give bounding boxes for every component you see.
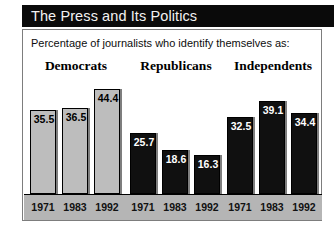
x-tick-republicans-1971: 1971 — [128, 201, 158, 214]
group-heading-republicans: Republicans — [128, 58, 224, 74]
x-tick-democrats-1992: 1992 — [92, 201, 122, 214]
bar-value: 34.4 — [292, 116, 318, 128]
bars-independents: 32.5 39.1 34.4 — [225, 76, 321, 194]
x-tick-independents-1971: 1971 — [225, 201, 255, 214]
page-title: The Press and Its Politics — [31, 7, 197, 26]
title-bar: The Press and Its Politics — [22, 5, 334, 27]
bar-value: 39.1 — [260, 104, 286, 116]
x-tick-republicans-1983: 1983 — [160, 201, 190, 214]
bar-independents-1971[interactable]: 32.5 — [227, 117, 253, 194]
chart-panel: Percentage of journalists who identify t… — [22, 29, 322, 221]
bar-democrats-1992[interactable]: 44.4 — [94, 89, 120, 194]
bar-independents-1983[interactable]: 39.1 — [259, 101, 285, 194]
group-heading-independents: Independents — [225, 58, 321, 74]
bar-democrats-1971[interactable]: 35.5 — [30, 110, 56, 194]
bar-value: 18.6 — [163, 153, 189, 165]
x-tick-independents-1983: 1983 — [257, 201, 287, 214]
bars-republicans: 25.7 18.6 16.3 — [128, 76, 224, 194]
bar-value: 36.5 — [63, 111, 89, 123]
x-tick-democrats-1983: 1983 — [60, 201, 90, 214]
chart-subtitle: Percentage of journalists who identify t… — [31, 36, 290, 50]
bar-independents-1992[interactable]: 34.4 — [291, 113, 317, 194]
x-tick-democrats-1971: 1971 — [28, 201, 58, 214]
x-tick-independents-1992: 1992 — [289, 201, 319, 214]
bar-republicans-1971[interactable]: 25.7 — [130, 133, 156, 194]
bar-republicans-1983[interactable]: 18.6 — [162, 150, 188, 194]
bar-value: 25.7 — [131, 136, 157, 148]
bar-value: 16.3 — [195, 158, 221, 170]
bars-democrats: 35.5 36.5 44.4 — [28, 76, 124, 194]
bar-value: 32.5 — [228, 120, 254, 132]
x-tick-republicans-1992: 1992 — [192, 201, 222, 214]
group-heading-democrats: Democrats — [28, 58, 124, 74]
bar-republicans-1992[interactable]: 16.3 — [194, 155, 220, 194]
chart-figure: The Press and Its Politics Percentage of… — [0, 0, 334, 228]
bar-democrats-1983[interactable]: 36.5 — [62, 108, 88, 194]
bar-value: 44.4 — [95, 92, 121, 104]
bar-value: 35.5 — [31, 113, 57, 125]
x-axis-strip: 1971 1983 1992 1971 1983 1992 1971 1983 … — [24, 194, 322, 220]
